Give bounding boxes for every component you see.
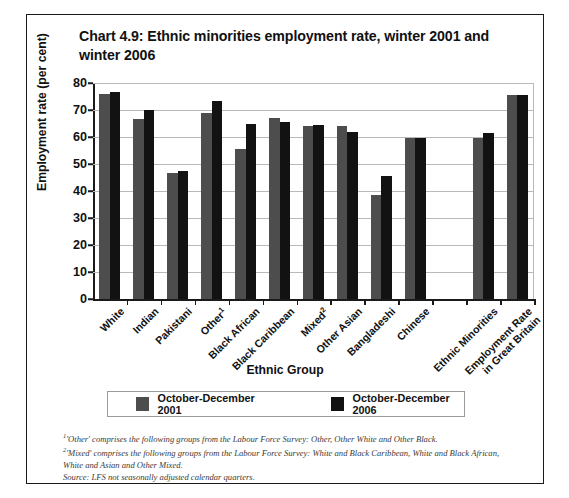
footnotes: 1'Other' comprises the following groups … (63, 431, 515, 484)
bar (371, 195, 382, 299)
x-tick-mark (432, 299, 434, 305)
y-tick-mark (88, 217, 93, 219)
bar (246, 124, 257, 300)
bar-group (439, 83, 460, 299)
legend-item: October-December 2001 (136, 392, 269, 416)
y-tick-label: 50 (73, 157, 87, 171)
x-tick-mark (195, 299, 197, 305)
bar-group (269, 83, 290, 299)
bar (313, 125, 324, 299)
bar (144, 110, 155, 299)
y-tick-label: 40 (73, 184, 87, 198)
bar (280, 122, 291, 299)
bar (381, 176, 392, 299)
x-tick-mark (500, 299, 502, 305)
bar (133, 119, 144, 299)
x-tick-mark (534, 299, 536, 305)
y-tick-mark (88, 244, 93, 246)
y-tick-mark (88, 298, 93, 300)
bar (517, 95, 528, 299)
bar (178, 171, 189, 299)
legend-swatch (136, 397, 149, 411)
chart-legend: October-December 2001October-December 20… (107, 391, 465, 417)
x-tick-mark (364, 299, 366, 305)
y-axis-title: Employment rate (per cent) (35, 33, 49, 191)
bar (405, 138, 416, 299)
bar (415, 138, 426, 299)
x-tick-mark (330, 299, 332, 305)
x-tick-mark (263, 299, 265, 305)
footnote-2-text: 'Mixed' comprises the following groups f… (63, 448, 499, 470)
y-tick-label: 80 (73, 76, 87, 90)
bar-group (337, 83, 358, 299)
x-tick-mark (161, 299, 163, 305)
legend-item: October-December 2006 (331, 392, 464, 416)
bar (347, 132, 358, 299)
bar-group (303, 83, 324, 299)
bar (483, 133, 494, 299)
bar (167, 173, 178, 299)
y-tick-label: 60 (73, 130, 87, 144)
legend-swatch (331, 397, 344, 411)
x-axis-label-text: Chinese (394, 305, 432, 343)
bar-group (405, 83, 426, 299)
bar (303, 126, 314, 299)
bar-group (235, 83, 256, 299)
y-tick-label: 10 (73, 265, 87, 279)
x-tick-mark (229, 299, 231, 305)
bar (212, 101, 223, 299)
bar-group (507, 83, 528, 299)
x-tick-mark (398, 299, 400, 305)
bar (235, 149, 246, 299)
x-axis-line (93, 299, 534, 301)
bar (337, 126, 348, 299)
bar-group (473, 83, 494, 299)
x-tick-mark (297, 299, 299, 305)
y-tick-label: 70 (73, 103, 87, 117)
bar-group (371, 83, 392, 299)
source-note: Source: LFS not seasonally adjusted cale… (63, 471, 515, 483)
x-tick-mark (466, 299, 468, 305)
footnote-1: 1'Other' comprises the following groups … (63, 431, 515, 445)
bar-group (167, 83, 188, 299)
bar-group (201, 83, 222, 299)
legend-label: October-December 2001 (158, 392, 269, 416)
y-tick-mark (88, 109, 93, 111)
chart-frame: Chart 4.9: Ethnic minorities employment … (26, 14, 544, 484)
x-axis-label-text: Indian (130, 305, 161, 336)
y-tick-mark (88, 271, 93, 273)
bar-group (133, 83, 154, 299)
chart-title: Chart 4.9: Ethnic minorities employment … (79, 27, 499, 65)
footnote-1-text: 'Other' comprises the following groups f… (66, 434, 438, 444)
bar (201, 113, 212, 299)
bar (99, 94, 110, 299)
y-tick-label: 0 (80, 292, 87, 306)
bar (269, 118, 280, 299)
x-tick-mark (127, 299, 129, 305)
legend-label: October-December 2006 (353, 392, 464, 416)
footnote-2: 2'Mixed' comprises the following groups … (63, 445, 515, 471)
bar-group (99, 83, 120, 299)
bar (507, 95, 518, 299)
x-axis-label-text: White (98, 305, 127, 334)
y-tick-mark (88, 82, 93, 84)
y-tick-label: 20 (73, 238, 87, 252)
chart-title-line1: Chart 4.9: Ethnic minorities employment … (79, 28, 460, 44)
y-tick-mark (88, 163, 93, 165)
bar (110, 92, 121, 299)
x-axis-title: Ethnic Group (27, 363, 543, 377)
y-tick-mark (88, 136, 93, 138)
y-tick-label: 30 (73, 211, 87, 225)
plot-area: 01020304050607080 (93, 83, 534, 299)
y-tick-mark (88, 190, 93, 192)
bar (473, 138, 484, 299)
